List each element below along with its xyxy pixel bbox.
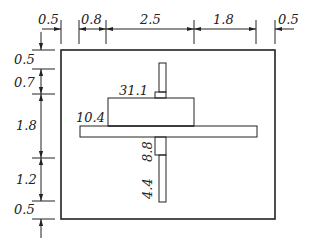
top-dimension-chain: 0.5 0.8 2.5 1.8 0.5 <box>38 12 299 44</box>
dim-top-right-margin: 0.5 <box>278 12 299 27</box>
slab-outline <box>61 50 275 219</box>
dim-left-bottom-margin: 0.5 <box>14 202 35 217</box>
value-label-vertical-lower: 4.4 <box>140 178 155 200</box>
value-label-high-block: 31.1 <box>119 83 148 98</box>
dim-left-top-margin: 0.5 <box>14 52 35 67</box>
horizontal-stress-diagram <box>80 98 257 137</box>
diagram-canvas: 0.5 0.8 2.5 1.8 0.5 0.5 0.7 1.8 1.2 0.5 <box>0 0 311 252</box>
dim-top-central-block: 2.5 <box>139 12 161 27</box>
dim-top-left-margin: 0.5 <box>38 12 59 27</box>
dim-left-upper-band: 0.7 <box>14 75 35 90</box>
value-label-vertical-upper: 8.8 <box>140 141 155 162</box>
dim-left-lower-band: 1.2 <box>16 172 37 187</box>
dim-top-right-step: 1.8 <box>213 12 234 27</box>
vertical-stress-diagram <box>155 63 166 202</box>
dim-top-left-step: 0.8 <box>81 12 102 27</box>
dim-left-middle-band: 1.8 <box>16 118 37 133</box>
value-label-low-step: 10.4 <box>76 110 105 125</box>
left-dimension-chain: 0.5 0.7 1.8 1.2 0.5 <box>14 32 55 238</box>
